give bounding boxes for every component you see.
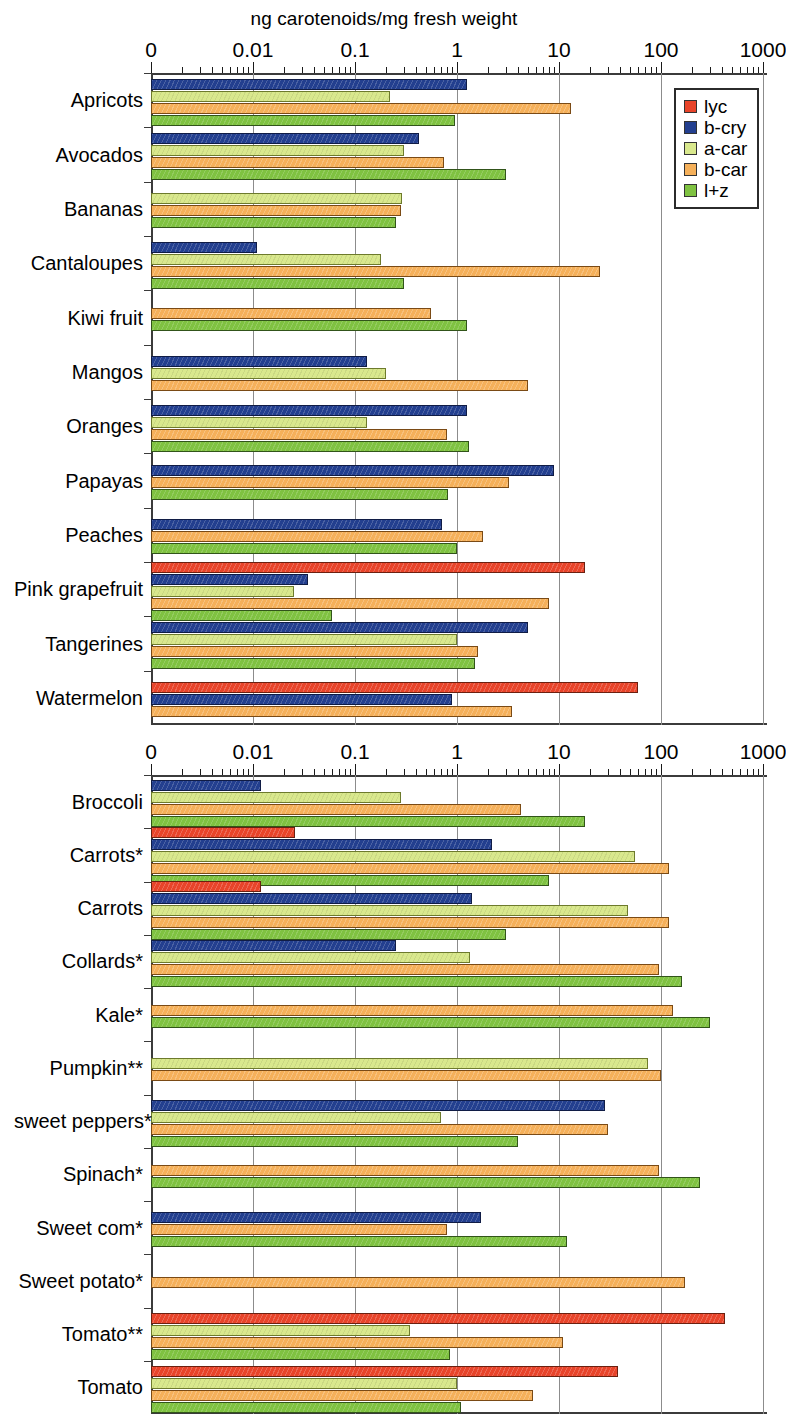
bar-bcar xyxy=(151,1165,659,1176)
legend-item-lz: l+z xyxy=(684,180,747,201)
bar-bcry xyxy=(151,622,528,633)
category-tick xyxy=(144,1361,151,1362)
category-label: Cantaloupes xyxy=(14,252,143,275)
category-tick xyxy=(144,882,151,883)
bar-lz xyxy=(151,1177,700,1188)
bar-lz xyxy=(151,441,469,452)
category-label: Pink grapefruit xyxy=(14,578,143,601)
plot-top-border xyxy=(151,775,767,777)
bar-acar xyxy=(151,851,635,862)
category-tick xyxy=(144,399,151,400)
category-label: Apricots xyxy=(14,89,143,112)
category-tick xyxy=(144,1308,151,1309)
bar-bcar xyxy=(151,1224,447,1235)
bar-bcry xyxy=(151,839,492,850)
x-tick-label: 10 xyxy=(547,740,570,764)
bar-bcry xyxy=(151,1212,481,1223)
x-axis-ticks-panel-2 xyxy=(0,764,768,775)
bar-lyc xyxy=(151,1366,618,1377)
bar-acar xyxy=(151,193,402,204)
category-label: Collards* xyxy=(14,950,143,973)
category-tick xyxy=(144,508,151,509)
plot-area-panel-2: BroccoliCarrots*CarrotsCollards*Kale*Pum… xyxy=(151,775,767,1414)
category-label: Peaches xyxy=(14,524,143,547)
bar-bcar xyxy=(151,646,478,657)
category-tick xyxy=(144,1041,151,1042)
x-tick-major xyxy=(559,764,560,775)
bar-bcar xyxy=(151,380,528,391)
bar-lz xyxy=(151,320,467,331)
bar-acar xyxy=(151,254,381,265)
bar-acar xyxy=(151,1112,441,1123)
legend-swatch-lyc-icon xyxy=(684,100,697,113)
x-tick-label: 0 xyxy=(145,740,157,764)
x-tick-label: 0.1 xyxy=(340,38,369,62)
bar-lz xyxy=(151,610,332,621)
legend-item-lyc: lyc xyxy=(684,96,747,117)
bar-bcar xyxy=(151,308,431,319)
x-tick-label: 1000 xyxy=(740,38,786,62)
bar-lyc xyxy=(151,562,585,573)
category-label: Tomato xyxy=(14,1376,143,1399)
bar-lz xyxy=(151,115,455,126)
category-label: Mangos xyxy=(14,361,143,384)
bar-bcar xyxy=(151,531,483,542)
bar-bcry xyxy=(151,940,396,951)
bar-bcry xyxy=(151,780,261,791)
bar-lz xyxy=(151,1017,710,1028)
bar-acar xyxy=(151,586,294,597)
bar-bcar xyxy=(151,706,512,717)
legend-swatch-bcar-icon xyxy=(684,163,697,176)
bar-bcar xyxy=(151,1124,608,1135)
x-axis-ticks-panel-1 xyxy=(0,62,768,73)
bar-bcry xyxy=(151,574,308,585)
bar-acar xyxy=(151,145,404,156)
bar-bcar xyxy=(151,917,669,928)
legend-label: b-cry xyxy=(704,118,746,137)
bar-lyc xyxy=(151,881,261,892)
category-label: Tomato** xyxy=(14,1323,143,1346)
x-tick-label: 1 xyxy=(451,740,463,764)
bar-bcar xyxy=(151,863,669,874)
legend-swatch-acar-icon xyxy=(684,142,697,155)
bar-bcar xyxy=(151,205,401,216)
x-tick-label: 1000 xyxy=(740,740,786,764)
chart-panel-1: ng carotenoids/mg fresh weight 00.010.11… xyxy=(0,0,768,726)
bar-bcry xyxy=(151,405,467,416)
bar-bcry xyxy=(151,465,554,476)
legend-item-bcry: b-cry xyxy=(684,117,747,138)
bar-bcar xyxy=(151,1337,563,1348)
bar-bcar xyxy=(151,157,444,168)
category-label: sweet peppers* xyxy=(14,1110,143,1133)
legend-swatch-lz-icon xyxy=(684,184,697,197)
bar-bcar xyxy=(151,598,549,609)
x-tick-major xyxy=(457,764,458,775)
plot-bottom-border xyxy=(151,723,767,725)
x-tick-major xyxy=(253,764,254,775)
bar-lz xyxy=(151,1136,518,1147)
bar-acar xyxy=(151,91,390,102)
legend-label: l+z xyxy=(704,181,729,200)
legend-swatch-bcry-icon xyxy=(684,121,697,134)
category-label: Pumpkin** xyxy=(14,1057,143,1080)
bar-bcar xyxy=(151,804,521,815)
category-tick xyxy=(144,345,151,346)
category-tick xyxy=(144,935,151,936)
category-tick xyxy=(144,671,151,672)
category-label: Sweet com* xyxy=(14,1217,143,1240)
x-tick-label: 0.1 xyxy=(340,740,369,764)
x-tick-label: 100 xyxy=(643,740,678,764)
x-tick-major xyxy=(661,764,662,775)
gridline xyxy=(661,73,662,725)
x-tick-major xyxy=(253,62,254,73)
bar-lyc xyxy=(151,827,295,838)
bar-acar xyxy=(151,1378,457,1389)
bar-lz xyxy=(151,976,682,987)
bar-bcar xyxy=(151,477,509,488)
x-tick-major xyxy=(763,764,764,775)
legend: lycb-crya-carb-carl+z xyxy=(674,88,759,209)
bar-lz xyxy=(151,816,585,827)
category-label: Carrots* xyxy=(14,844,143,867)
bar-bcar xyxy=(151,1005,673,1016)
category-label: Spinach* xyxy=(14,1163,143,1186)
